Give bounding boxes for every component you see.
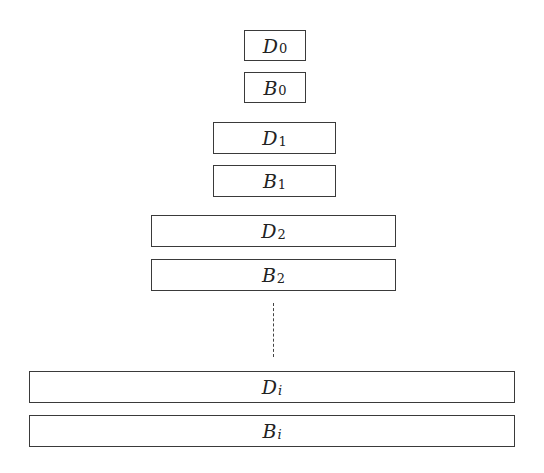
block-b0: B0: [244, 72, 306, 103]
block-label: D: [263, 35, 278, 57]
block-subscript: i: [277, 427, 281, 442]
block-subscript: i: [278, 383, 282, 398]
block-di: Di: [29, 371, 515, 403]
block-b1: B1: [213, 165, 336, 197]
block-subscript: 0: [278, 83, 286, 98]
block-label: D: [261, 220, 276, 242]
block-d0: D0: [244, 30, 306, 61]
block-subscript: 1: [278, 134, 286, 149]
block-bi: Bi: [29, 415, 515, 447]
continuation-dashed-line: [273, 303, 274, 357]
block-label: B: [262, 420, 276, 442]
block-d1: D1: [213, 122, 336, 154]
block-subscript: 1: [278, 177, 286, 192]
block-label: B: [263, 170, 277, 192]
block-subscript: 0: [279, 41, 287, 56]
block-label: D: [262, 127, 277, 149]
block-label: D: [262, 376, 277, 398]
block-b2: B2: [151, 259, 396, 291]
block-label: B: [262, 264, 276, 286]
block-subscript: 2: [277, 271, 285, 286]
block-label: B: [263, 77, 277, 99]
block-d2: D2: [151, 215, 396, 247]
block-subscript: 2: [277, 227, 285, 242]
